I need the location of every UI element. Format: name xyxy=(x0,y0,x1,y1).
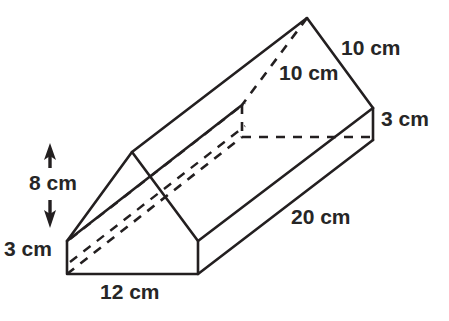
dashed-left-face-lines xyxy=(70,18,307,262)
hidden-line-floor-diagonal xyxy=(67,108,242,269)
label-slant-left: 10 cm xyxy=(279,62,339,83)
label-end-height: 3 cm xyxy=(381,108,429,129)
label-base-width: 12 cm xyxy=(100,281,160,302)
hidden-interior-lines xyxy=(67,105,242,269)
label-slant-right: 10 cm xyxy=(341,37,401,58)
label-total-height: 8 cm xyxy=(29,172,77,193)
geometry-figure: 10 cm 10 cm 3 cm 20 cm 8 cm 3 cm 12 cm xyxy=(0,0,449,321)
label-length: 20 cm xyxy=(291,206,351,227)
edge-apex-ridge xyxy=(132,18,307,152)
label-base-height: 3 cm xyxy=(4,238,52,259)
front-face-outline xyxy=(67,152,198,274)
hidden-ridge-left-2 xyxy=(70,126,245,262)
